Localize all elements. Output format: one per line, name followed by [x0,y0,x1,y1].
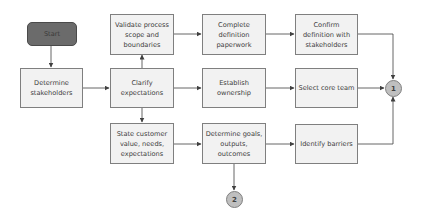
determine-goals-node: Determine goals, outputs, outcomes [202,123,266,164]
determine-stakeholders-label: Determine stakeholders [23,78,80,98]
complete-paperwork-node: Complete definition paperwork [202,14,266,55]
start-node: Start [27,22,77,46]
complete-paperwork-label: Complete definition paperwork [205,20,263,50]
connector-1-label: 1 [391,85,396,93]
establish-ownership-label: Establish ownership [205,78,263,98]
select-core-team-label: Select core team [299,83,355,93]
confirm-definition-node: Confirm definition with stakeholders [295,14,358,55]
connector-2-label: 2 [232,196,237,204]
determine-goals-label: Determine goals, outputs, outcomes [205,129,263,159]
establish-ownership-node: Establish ownership [202,68,266,108]
start-label: Start [44,29,60,39]
identify-barriers-label: Identify barriers [300,139,353,149]
validate-scope-node: Validate process scope and boundaries [110,14,174,55]
identify-barriers-node: Identify barriers [295,124,358,164]
connector-1: 1 [385,80,402,97]
select-core-team-node: Select core team [295,68,358,108]
state-customer-value-node: State customer value, needs, expectation… [110,123,174,164]
determine-stakeholders-node: Determine stakeholders [20,68,83,108]
connector-2: 2 [226,191,243,208]
clarify-expectations-node: Clarify expectations [110,68,174,108]
validate-scope-label: Validate process scope and boundaries [113,20,171,50]
clarify-expectations-label: Clarify expectations [113,78,171,98]
state-customer-value-label: State customer value, needs, expectation… [113,129,171,159]
confirm-definition-label: Confirm definition with stakeholders [298,20,355,50]
